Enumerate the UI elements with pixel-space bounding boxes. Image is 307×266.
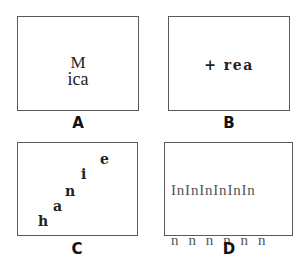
panel-c-letter-n: n bbox=[65, 183, 75, 199]
panel-c-letter-h: h bbox=[38, 213, 48, 229]
panel-d-row: InInInInInIn bbox=[171, 182, 288, 199]
panel-c-label: C bbox=[62, 240, 92, 258]
panel-c-letter-a: a bbox=[53, 198, 62, 214]
panel-d-label: D bbox=[214, 240, 244, 258]
panel-b-box: + rea bbox=[168, 16, 290, 111]
panel-b-label: B bbox=[214, 114, 244, 132]
panel-a-box: M ica bbox=[17, 16, 139, 111]
panel-d-box: InInInInInIn n n n n n n InInInInInIn n … bbox=[164, 142, 293, 236]
panel-a-line-2: ica bbox=[18, 71, 138, 87]
panel-c-letter-e: e bbox=[100, 151, 109, 167]
panel-c-letter-i: i bbox=[81, 166, 86, 182]
panel-a-label: A bbox=[63, 114, 93, 132]
panel-c-box: h a n i e bbox=[17, 142, 138, 236]
panel-b-text: + rea bbox=[169, 57, 289, 73]
